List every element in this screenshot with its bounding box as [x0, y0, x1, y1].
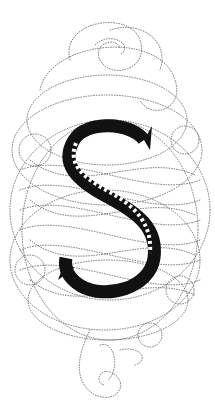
decorated-capital-letter: S — [46, 118, 176, 308]
illustration: S — [0, 0, 215, 414]
letter-glyph: S — [46, 118, 47, 119]
